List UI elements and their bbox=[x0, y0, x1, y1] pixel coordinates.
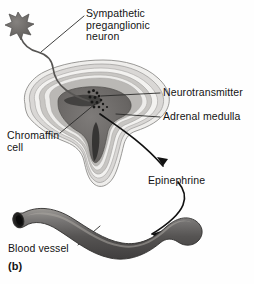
neuron-soma-star-icon bbox=[5, 12, 34, 40]
label-neurotransmitter: Neurotransmitter bbox=[163, 87, 243, 99]
label-sympathetic-preganglionic-neuron: Sympathetic preganglionic neuron bbox=[86, 8, 150, 43]
label-adrenal-medulla: Adrenal medulla bbox=[163, 111, 240, 123]
label-epinephrine: Epinephrine bbox=[148, 175, 205, 187]
leader-line-sympathetic bbox=[41, 16, 84, 52]
panel-label: (b) bbox=[8, 261, 22, 273]
adrenal-gland bbox=[24, 60, 169, 186]
label-chromaffin-cell: Chromaffin cell bbox=[7, 130, 59, 153]
label-blood-vessel: Blood vessel bbox=[8, 243, 69, 255]
